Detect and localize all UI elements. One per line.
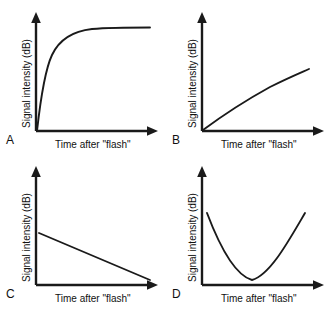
chart-panel-b: B Time after "flash" Signal intensity (d… (166, 0, 332, 157)
data-curve-a (37, 28, 150, 132)
panel-letter-c: C (6, 288, 15, 300)
x-axis-label-a: Time after "flash" (55, 140, 131, 150)
panel-letter-b: B (172, 134, 180, 146)
y-axis-c (31, 166, 41, 285)
x-axis-b (202, 126, 324, 136)
data-curve-d (207, 213, 305, 280)
x-axis-label-b: Time after "flash" (221, 140, 297, 150)
chart-panel-c: C Time after "flash" Signal intensity (d… (0, 157, 166, 314)
y-axis-d (197, 166, 207, 285)
y-axis-label-a: Signal intensity (dB) (22, 39, 32, 128)
chart-panel-d: D Time after "flash" Signal intensity (d… (166, 157, 332, 314)
y-axis-label-d: Signal intensity (dB) (188, 193, 198, 282)
x-axis-label-d: Time after "flash" (221, 294, 297, 304)
x-axis-label-c: Time after "flash" (55, 294, 131, 304)
panel-letter-d: D (172, 288, 181, 300)
data-curve-c (39, 233, 150, 280)
data-curve-b (203, 69, 309, 130)
panel-letter-a: A (6, 134, 14, 146)
y-axis-label-b: Signal intensity (dB) (188, 39, 198, 128)
y-axis-b (197, 12, 207, 131)
x-axis-a (36, 126, 158, 136)
chart-panel-a: A Time after "flash" Signal intensity (d… (0, 0, 166, 157)
four-panel-figure: A Time after "flash" Signal intensity (d… (0, 0, 332, 314)
y-axis-label-c: Signal intensity (dB) (22, 193, 32, 282)
x-axis-c (36, 280, 158, 290)
x-axis-d (202, 280, 324, 290)
